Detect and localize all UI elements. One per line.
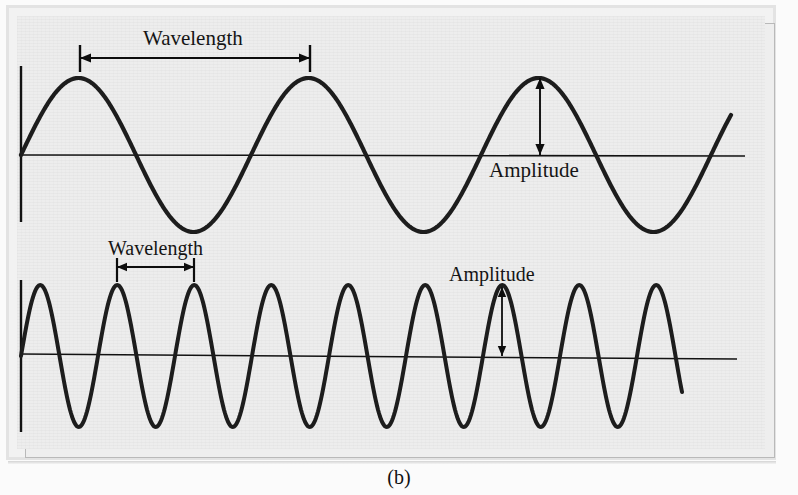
plot-surface [17,16,765,449]
wave-diagram-svg [17,16,765,449]
bottom-wave-group [21,280,737,432]
bottom-amplitude-arrowhead-down [498,346,506,356]
bottom-wave-baseline [21,354,737,359]
top-wavelength-arrowhead-right [299,53,310,62]
bottom-wavelength-arrowhead-left [117,263,127,271]
label-wavelength-top: Wavelength [143,28,243,49]
bottom-amplitude-annotation [498,287,506,356]
figure-page: Wavelength Amplitude Wavelength Amplitud… [0,0,798,495]
label-amplitude-top: Amplitude [489,160,579,181]
label-amplitude-bottom: Amplitude [449,264,535,284]
page-bottom-edge [8,461,776,464]
label-wavelength-bottom: Wavelength [108,238,203,258]
top-amplitude-arrowhead-down [535,144,544,155]
top-wave-baseline [21,155,745,156]
top-wave-group [21,66,745,232]
top-wavelength-arrowhead-left [80,53,91,62]
bottom-wavelength-annotation [117,258,194,282]
figure-caption: (b) [0,466,798,489]
bottom-wavelength-arrowhead-right [184,263,194,271]
top-amplitude-annotation [535,78,544,155]
